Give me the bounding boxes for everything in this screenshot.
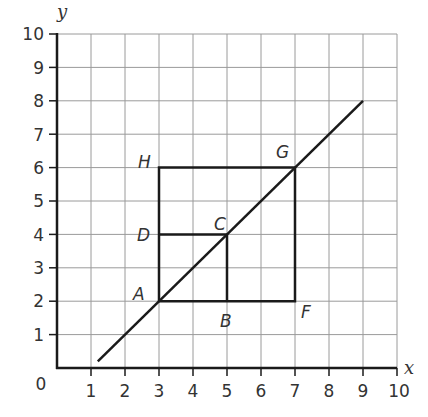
coordinate-diagram: 1 2 3 4 5 6 7 8 9 10 1 2 3 4 5 6 7 8 9 1… xyxy=(0,0,428,417)
y-tick-3: 3 xyxy=(33,258,44,278)
label-B: B xyxy=(220,311,232,331)
label-A: A xyxy=(132,284,145,304)
x-tick-labels: 1 2 3 4 5 6 7 8 9 10 xyxy=(86,381,410,401)
x-tick-3: 3 xyxy=(154,381,165,401)
x-tick-2: 2 xyxy=(120,381,131,401)
x-axis-label: x xyxy=(404,357,414,378)
x-tick-10: 10 xyxy=(388,381,410,401)
graph-svg: 1 2 3 4 5 6 7 8 9 10 1 2 3 4 5 6 7 8 9 1… xyxy=(0,0,428,417)
x-tick-9: 9 xyxy=(358,381,369,401)
label-H: H xyxy=(138,152,151,172)
x-tick-1: 1 xyxy=(86,381,97,401)
x-tick-5: 5 xyxy=(222,381,233,401)
x-tick-6: 6 xyxy=(256,381,267,401)
x-tick-4: 4 xyxy=(188,381,199,401)
y-tick-7: 7 xyxy=(33,125,44,145)
y-tick-2: 2 xyxy=(33,291,44,311)
y-tick-6: 6 xyxy=(33,158,44,178)
y-tick-1: 1 xyxy=(33,325,44,345)
x-tick-8: 8 xyxy=(324,381,335,401)
y-tick-labels: 1 2 3 4 5 6 7 8 9 10 xyxy=(22,24,44,345)
y-tick-4: 4 xyxy=(33,225,44,245)
y-axis-label: y xyxy=(56,1,68,22)
label-C: C xyxy=(214,214,226,234)
origin-label: 0 xyxy=(36,374,47,394)
y-tick-10: 10 xyxy=(22,24,44,44)
y-tick-8: 8 xyxy=(33,91,44,111)
y-tick-5: 5 xyxy=(33,191,44,211)
x-tick-7: 7 xyxy=(290,381,301,401)
label-F: F xyxy=(301,302,311,322)
label-D: D xyxy=(137,225,150,245)
label-G: G xyxy=(276,142,289,162)
y-tick-9: 9 xyxy=(33,58,44,78)
